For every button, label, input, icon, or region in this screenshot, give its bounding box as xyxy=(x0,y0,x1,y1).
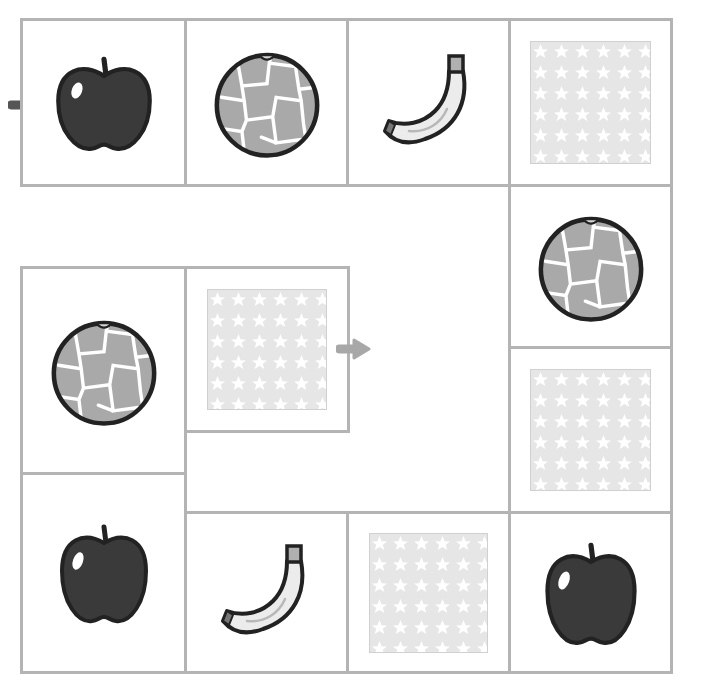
board-cell-8-blank[interactable] xyxy=(346,511,511,674)
banana-icon xyxy=(217,543,317,643)
star-pattern-blank-icon xyxy=(207,289,327,410)
banana-icon xyxy=(379,53,479,153)
melon-icon xyxy=(534,210,648,324)
apple-icon xyxy=(52,51,156,155)
board-cell-2-melon[interactable] xyxy=(184,18,349,187)
melon-icon xyxy=(210,46,324,160)
board-cell-10-apple[interactable] xyxy=(20,472,187,674)
board-cell-6-blank[interactable] xyxy=(508,346,673,514)
star-pattern-blank-icon xyxy=(369,533,488,653)
star-pattern-blank-icon xyxy=(530,41,651,164)
board-cell-3-banana[interactable] xyxy=(346,18,511,187)
board-cell-1-apple[interactable] xyxy=(20,18,187,187)
board-cell-4-blank[interactable] xyxy=(508,18,673,187)
melon-icon xyxy=(47,314,161,428)
board-cell-9-banana[interactable] xyxy=(184,511,349,674)
board-cell-12-blank[interactable] xyxy=(184,266,350,433)
star-pattern-blank-icon xyxy=(530,369,651,491)
board-cell-7-apple[interactable] xyxy=(508,511,673,674)
end-arrow-icon xyxy=(336,338,372,360)
apple-icon xyxy=(539,537,643,649)
apple-icon xyxy=(54,517,154,629)
board-cell-5-melon[interactable] xyxy=(508,184,673,349)
board-cell-11-melon[interactable] xyxy=(20,266,187,475)
